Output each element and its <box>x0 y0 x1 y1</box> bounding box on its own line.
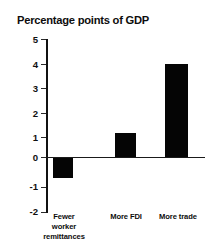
y-tick-mark <box>41 137 46 138</box>
y-tick-label: -2 <box>14 207 38 217</box>
y-tick-label: 5 <box>14 35 38 45</box>
y-tick-mark <box>41 88 46 89</box>
y-tick-label: 1 <box>14 133 38 143</box>
bar-fewer-worker-remittances <box>53 158 73 178</box>
category-label-fewer-worker-remittances: Fewer worker remittances <box>38 212 90 243</box>
plot-area: 5 4 3 2 1 0 -1 -2 Fewer worker remittanc… <box>0 0 208 251</box>
y-axis-line <box>46 39 48 213</box>
y-tick-label: 3 <box>14 84 38 94</box>
y-tick-label: 0 <box>14 153 38 163</box>
y-tick-label: -1 <box>14 182 38 192</box>
bar-more-trade <box>165 64 188 157</box>
y-tick-mark <box>41 187 46 188</box>
category-label-more-fdi: More FDI <box>101 212 151 222</box>
y-tick-label: 2 <box>14 109 38 119</box>
category-label-line: More trade <box>151 212 205 222</box>
bar-more-fdi <box>115 133 136 157</box>
y-tick-mark <box>41 113 46 114</box>
y-tick-mark <box>41 64 46 65</box>
category-label-line: Fewer <box>38 212 90 222</box>
category-label-more-trade: More trade <box>151 212 205 222</box>
category-label-line: More FDI <box>101 212 151 222</box>
y-tick-mark <box>41 157 46 158</box>
bar-chart-figure: Percentage points of GDP 5 4 3 2 1 0 -1 … <box>0 0 208 251</box>
y-tick-mark <box>41 39 46 40</box>
y-tick-label: 4 <box>14 60 38 70</box>
category-label-line: worker <box>38 222 90 232</box>
category-label-line: remittances <box>38 232 90 242</box>
